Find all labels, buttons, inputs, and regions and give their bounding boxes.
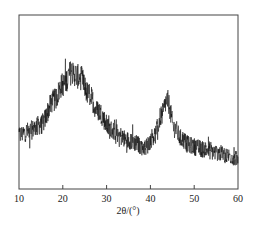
xrd-chart: 102030405060 2θ/(°) [0,0,253,233]
x-tick-label-60: 60 [233,193,243,204]
series-line-0 [19,59,238,166]
x-tick-label-40: 40 [145,193,155,204]
x-tick-label-30: 30 [102,193,112,204]
x-tick-label-20: 20 [58,193,68,204]
x-axis-title: 2θ/(°) [116,205,139,217]
series-layer [19,59,238,166]
x-tick-label-50: 50 [189,193,199,204]
x-ticks [63,185,194,189]
x-tick-label-10: 10 [14,193,24,204]
x-tick-labels: 102030405060 [14,193,243,204]
